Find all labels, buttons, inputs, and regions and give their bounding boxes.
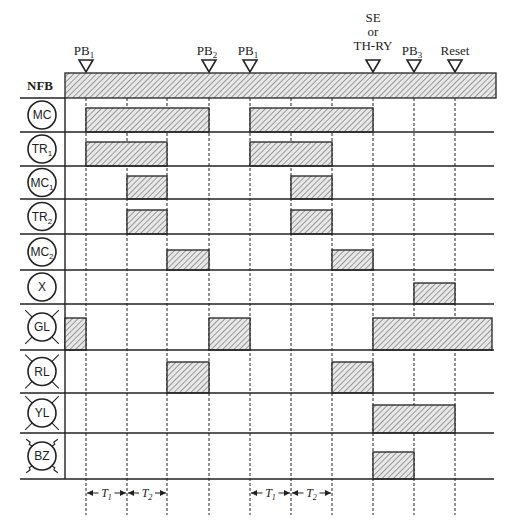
timing-diagram: PB1PB2PB1SEorTH-RYPB3Reset NFBMCTR1MC1TR…	[0, 0, 510, 525]
dashed-gridlines	[86, 73, 455, 515]
on-state-bar	[86, 142, 167, 166]
triangle-marker-icon	[243, 60, 257, 72]
on-state-bar	[209, 318, 250, 350]
row-label: MC	[33, 108, 52, 122]
row-tr1: TR1	[20, 135, 494, 166]
lamp-ray-icon	[25, 396, 32, 403]
interval-label: T2	[306, 486, 317, 502]
marker-pb1: PB1	[238, 43, 258, 72]
arrow-right-icon	[160, 490, 166, 496]
lamp-ray-icon	[25, 337, 32, 344]
lamp-ray-icon	[25, 355, 32, 362]
row-label: X	[38, 280, 46, 294]
marker-label: or	[368, 24, 380, 39]
row-label: GL	[34, 320, 50, 334]
on-state-bar	[167, 250, 209, 270]
triangle-marker-icon	[448, 60, 462, 72]
on-state-bar	[291, 210, 332, 234]
marker-label: PB1	[238, 43, 258, 60]
on-state-bar	[65, 318, 86, 350]
signal-rows: NFBMCTR1MC1TR2MC2XGLRLYLBZ	[20, 73, 496, 479]
triangle-marker-icon	[79, 60, 93, 72]
buzzer-ray-icon	[52, 439, 58, 446]
lamp-ray-icon	[25, 310, 32, 317]
marker-pb1: PB1	[74, 43, 94, 72]
triangle-marker-icon	[202, 60, 216, 72]
lamp-ray-icon	[52, 381, 59, 388]
marker-pb3: PB3	[402, 43, 423, 72]
arrow-left-icon	[128, 490, 134, 496]
row-mc1: MC1	[20, 169, 494, 200]
row-label: RL	[34, 365, 50, 379]
arrow-left-icon	[292, 490, 298, 496]
arrow-left-icon	[251, 490, 257, 496]
triangle-marker-icon	[407, 60, 421, 72]
row-gl: GL	[20, 310, 494, 350]
buzzer-ray-icon	[52, 466, 58, 473]
marker-label: PB1	[74, 43, 94, 60]
marker-se-or-th-ry: SEorTH-RY	[354, 10, 394, 72]
row-yl: YL	[20, 396, 494, 433]
row-bz: BZ	[20, 439, 494, 479]
on-state-bar	[332, 250, 373, 270]
interval-label: T2	[142, 486, 153, 502]
lamp-ray-icon	[52, 355, 59, 362]
on-state-bar	[86, 108, 209, 132]
on-state-bar	[167, 362, 209, 393]
lamp-ray-icon	[52, 310, 59, 317]
row-mc2: MC2	[20, 238, 494, 270]
on-state-bar	[127, 210, 167, 234]
lamp-ray-icon	[25, 423, 32, 430]
on-state-bar	[291, 176, 332, 199]
lamp-ray-icon	[52, 396, 59, 403]
on-state-bar	[332, 362, 373, 393]
arrow-right-icon	[120, 490, 126, 496]
row-mc: MC	[20, 101, 494, 132]
row-nfb: NFB	[20, 73, 496, 98]
lamp-ray-icon	[52, 337, 59, 344]
interval-t2: T2	[128, 486, 166, 502]
time-markers: PB1PB2PB1SEorTH-RYPB3Reset	[74, 10, 470, 72]
on-state-bar	[127, 176, 167, 199]
arrow-right-icon	[325, 490, 331, 496]
interval-t2: T2	[292, 486, 331, 502]
interval-t1: T1	[87, 486, 126, 502]
on-state-bar	[250, 142, 332, 166]
triangle-marker-icon	[366, 60, 380, 72]
interval-label: T1	[265, 486, 276, 502]
row-rl: RL	[20, 355, 494, 393]
row-tr2: TR2	[20, 203, 494, 235]
arrow-left-icon	[87, 490, 93, 496]
on-state-bar	[65, 73, 496, 98]
on-state-bar	[414, 283, 455, 304]
buzzer-ray-icon	[26, 439, 32, 446]
row-label: NFB	[27, 78, 53, 93]
on-state-bar	[373, 318, 492, 350]
marker-pb2: PB2	[197, 43, 217, 72]
on-state-bar	[373, 405, 455, 433]
on-state-bar	[250, 108, 373, 132]
interval-label: T1	[101, 486, 112, 502]
marker-label: Reset	[441, 43, 470, 58]
marker-label: PB2	[197, 43, 217, 60]
lamp-ray-icon	[52, 423, 59, 430]
arrow-right-icon	[284, 490, 290, 496]
marker-label: SE	[365, 10, 380, 25]
lamp-ray-icon	[25, 381, 32, 388]
marker-reset: Reset	[441, 43, 470, 72]
on-state-bar	[373, 452, 414, 479]
row-x: X	[20, 273, 494, 304]
marker-label: PB3	[402, 43, 423, 60]
row-label: BZ	[34, 449, 49, 463]
buzzer-ray-icon	[26, 466, 32, 473]
interval-t1: T1	[251, 486, 290, 502]
marker-label: TH-RY	[354, 38, 394, 53]
row-label: YL	[35, 406, 50, 420]
